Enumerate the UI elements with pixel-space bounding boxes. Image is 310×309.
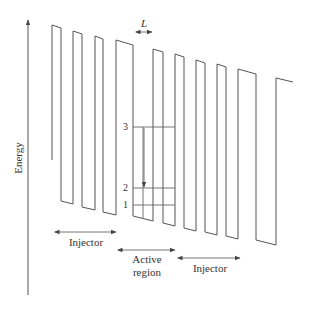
well-width-indicator: L <box>136 17 152 32</box>
region-labels: Injector Active region Injector <box>55 232 240 278</box>
injector-left-label: Injector <box>69 236 104 248</box>
energy-axis-label: Energy <box>12 142 24 174</box>
conduction-band-profile <box>52 25 293 245</box>
band-diagram: Energy L 3 2 1 Injector Active region In… <box>0 0 310 309</box>
level-3-label: 3 <box>123 121 128 132</box>
injector-right-label: Injector <box>193 262 228 274</box>
energy-levels: 3 2 1 <box>123 121 175 218</box>
level-2-label: 2 <box>123 182 128 193</box>
active-region-label-1: Active <box>132 253 161 265</box>
width-label: L <box>140 17 147 29</box>
level-1-label: 1 <box>123 199 128 210</box>
active-region-label-2: region <box>133 266 162 278</box>
energy-axis: Energy <box>12 20 28 295</box>
